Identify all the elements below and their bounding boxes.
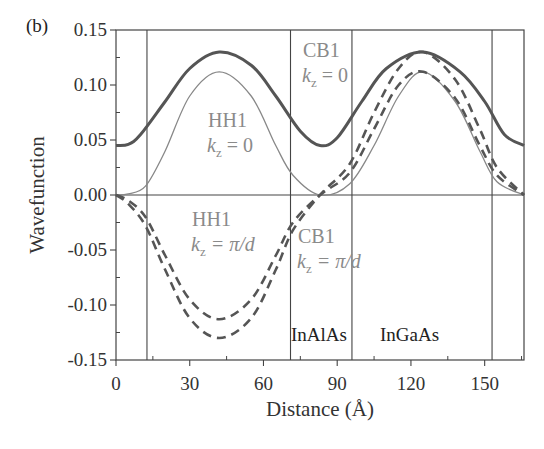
x-axis-ticks: 0306090120150 xyxy=(111,356,521,394)
region-label-ingaas: InGaAs xyxy=(380,324,439,345)
annotation-hh1-kpi: HH1 xyxy=(192,208,231,230)
annotation-hh1-k0-eq: kz = 0 xyxy=(207,134,253,160)
annotation-hh1-k0: HH1 xyxy=(208,109,247,131)
x-tick-label: 120 xyxy=(397,373,426,394)
y-tick-label: -0.05 xyxy=(67,239,107,260)
annotation-cb1-k0-eq: kz = 0 xyxy=(302,64,348,90)
x-axis-title: Distance (Å) xyxy=(266,397,374,421)
annotation-cb1-kpi: CB1 xyxy=(298,225,335,247)
y-tick-label: 0.05 xyxy=(74,129,107,150)
y-tick-label: 0.15 xyxy=(74,19,107,40)
y-tick-label: -0.15 xyxy=(67,349,107,370)
annotation-hh1-kpi-eq: kz = π/d xyxy=(191,233,256,259)
x-tick-label: 0 xyxy=(111,373,121,394)
y-tick-label: -0.10 xyxy=(67,294,107,315)
x-tick-label: 150 xyxy=(470,373,499,394)
wavefunction-chart: (b) 0.150.100.050.00-0.05-0.10-0.15 0306… xyxy=(0,0,544,449)
y-tick-label: 0.10 xyxy=(74,74,107,95)
y-axis-ticks: 0.150.100.050.00-0.05-0.10-0.15 xyxy=(67,19,120,370)
x-tick-label: 30 xyxy=(180,373,199,394)
x-tick-label: 90 xyxy=(328,373,347,394)
y-tick-label: 0.00 xyxy=(74,184,107,205)
region-label-inalas: InAlAs xyxy=(291,324,347,345)
annotation-cb1-k0: CB1 xyxy=(303,39,340,61)
x-tick-label: 60 xyxy=(254,373,273,394)
y-axis-title: Wavefunction xyxy=(25,136,49,254)
panel-label: (b) xyxy=(26,15,48,37)
